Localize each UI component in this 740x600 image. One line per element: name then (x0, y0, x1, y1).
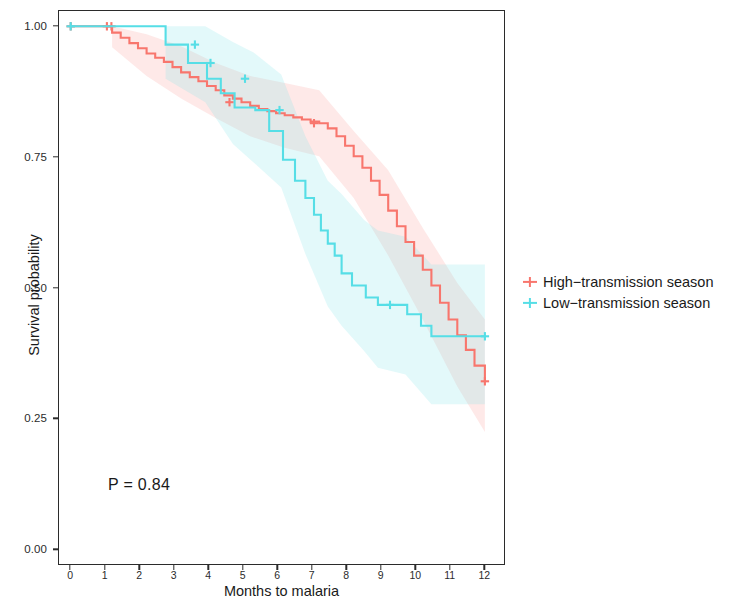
legend: High−transmission seasonLow−transmission… (522, 272, 713, 312)
x-tick-mark (173, 565, 174, 570)
x-tick-mark (104, 565, 105, 570)
x-tick-mark (207, 565, 208, 570)
survival-plot-figure: 0.000.250.500.751.00 0123456789101112 Mo… (0, 0, 740, 600)
x-tick-label: 10 (409, 569, 421, 581)
y-tick-label: 1.00 (24, 20, 47, 32)
x-tick-label: 7 (309, 569, 315, 581)
x-tick-label: 2 (136, 569, 142, 581)
legend-entry[interactable]: High−transmission season (522, 272, 713, 291)
x-tick-mark (449, 565, 450, 570)
x-tick-mark (138, 565, 139, 570)
x-tick-label: 9 (378, 569, 384, 581)
legend-label: Low−transmission season (543, 295, 710, 311)
legend-label: High−transmission season (543, 274, 713, 290)
x-tick-label: 3 (171, 569, 177, 581)
x-tick-label: 12 (478, 569, 490, 581)
y-tick-label: 0.00 (24, 543, 47, 555)
x-tick-mark (415, 565, 416, 570)
x-axis-title: Months to malaria (58, 583, 505, 599)
x-tick-label: 0 (67, 569, 73, 581)
y-tick-label: 0.75 (24, 151, 47, 163)
x-tick-label: 1 (102, 569, 108, 581)
x-tick-label: 5 (240, 569, 246, 581)
plus-marker-icon (522, 274, 538, 290)
x-tick-label: 6 (274, 569, 280, 581)
y-axis-title: Survival probability (26, 175, 42, 415)
x-tick-mark (242, 565, 243, 570)
x-tick-mark (380, 565, 381, 570)
x-tick-label: 8 (343, 569, 349, 581)
legend-entry[interactable]: Low−transmission season (522, 293, 713, 312)
censor-mark (67, 23, 75, 31)
x-tick-label: 11 (444, 569, 455, 581)
x-tick-mark (484, 565, 485, 570)
x-tick-mark (346, 565, 347, 570)
p-value-annotation: P = 0.84 (108, 476, 170, 494)
x-tick-mark (69, 565, 70, 570)
confidence-band (166, 27, 485, 405)
x-tick-mark (311, 565, 312, 570)
x-tick-label: 4 (205, 569, 211, 581)
x-tick-mark (276, 565, 277, 570)
plus-marker-icon (522, 295, 538, 311)
